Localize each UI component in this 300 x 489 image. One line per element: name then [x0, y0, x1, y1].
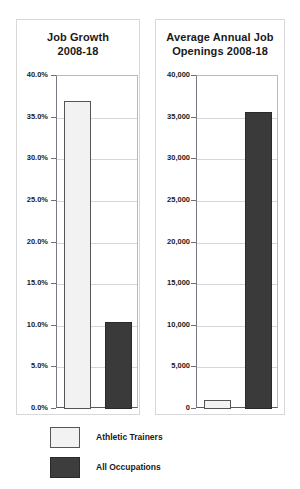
chart-title-line-1: Average Annual Job	[156, 30, 284, 44]
y-axis-tick-label: 15.0%	[8, 279, 48, 287]
chart-title-line-1: Job Growth	[17, 30, 139, 44]
legend-label-all-occupations: All Occupations	[96, 462, 161, 472]
axis-tick	[51, 75, 56, 76]
y-axis-tick-label: 35.0%	[8, 113, 48, 121]
y-axis-tick-label: 35,000	[150, 113, 190, 121]
axis-tick	[191, 242, 196, 243]
axis-tick	[191, 117, 196, 118]
axis-tick	[51, 408, 56, 409]
y-axis-tick-label: 10.0%	[8, 321, 48, 329]
axis-tick	[191, 325, 196, 326]
axis-tick	[51, 242, 56, 243]
y-axis-tick-label: 30.0%	[8, 154, 48, 162]
y-axis-tick-label: 0	[150, 404, 190, 412]
axis-tick	[191, 200, 196, 201]
y-axis-tick-label: 5,000	[150, 362, 190, 370]
y-axis-tick-label: 20.0%	[8, 238, 48, 246]
axis-tick	[51, 200, 56, 201]
axis-tick	[51, 366, 56, 367]
bar-all-occupations	[245, 112, 272, 409]
legend-item-all-occupations: All Occupations	[50, 456, 280, 478]
bar-athletic-trainers	[204, 400, 231, 409]
y-axis-tick-label: 25.0%	[8, 196, 48, 204]
chart-title-job-growth: Job Growth 2008-18	[17, 30, 139, 58]
legend-label-athletic-trainers: Athletic Trainers	[96, 432, 163, 442]
y-axis-tick-label: 40,000	[150, 71, 190, 79]
bar-athletic-trainers	[64, 101, 91, 409]
chart-title-job-openings: Average Annual Job Openings 2008-18	[156, 30, 284, 58]
y-axis-tick-label: 40.0%	[8, 71, 48, 79]
chart-title-line-2: 2008-18	[17, 44, 139, 58]
y-axis-tick-label: 25,000	[150, 196, 190, 204]
axis-tick	[51, 158, 56, 159]
axis-tick	[191, 366, 196, 367]
y-axis-tick-label: 10,000	[150, 321, 190, 329]
y-axis-tick-label: 15,000	[150, 279, 190, 287]
y-axis-tick-label: 5.0%	[8, 362, 48, 370]
plot-area-job-openings	[196, 75, 278, 408]
axis-tick	[191, 75, 196, 76]
axis-tick	[191, 158, 196, 159]
y-axis-tick-label: 30,000	[150, 154, 190, 162]
axis-tick	[51, 117, 56, 118]
y-axis-tick-label: 0.0%	[8, 404, 48, 412]
legend-swatch-all-occupations	[50, 457, 80, 478]
legend-item-athletic-trainers: Athletic Trainers	[50, 426, 280, 448]
chart-title-line-2: Openings 2008-18	[156, 44, 284, 58]
bar-all-occupations	[105, 322, 132, 409]
axis-tick	[191, 408, 196, 409]
axis-tick	[51, 283, 56, 284]
plot-area-job-growth	[56, 75, 138, 408]
legend-swatch-athletic-trainers	[50, 427, 80, 448]
axis-tick	[191, 283, 196, 284]
chart-legend: Athletic Trainers All Occupations	[50, 426, 280, 486]
y-axis-tick-label: 20,000	[150, 238, 190, 246]
axis-tick	[51, 325, 56, 326]
